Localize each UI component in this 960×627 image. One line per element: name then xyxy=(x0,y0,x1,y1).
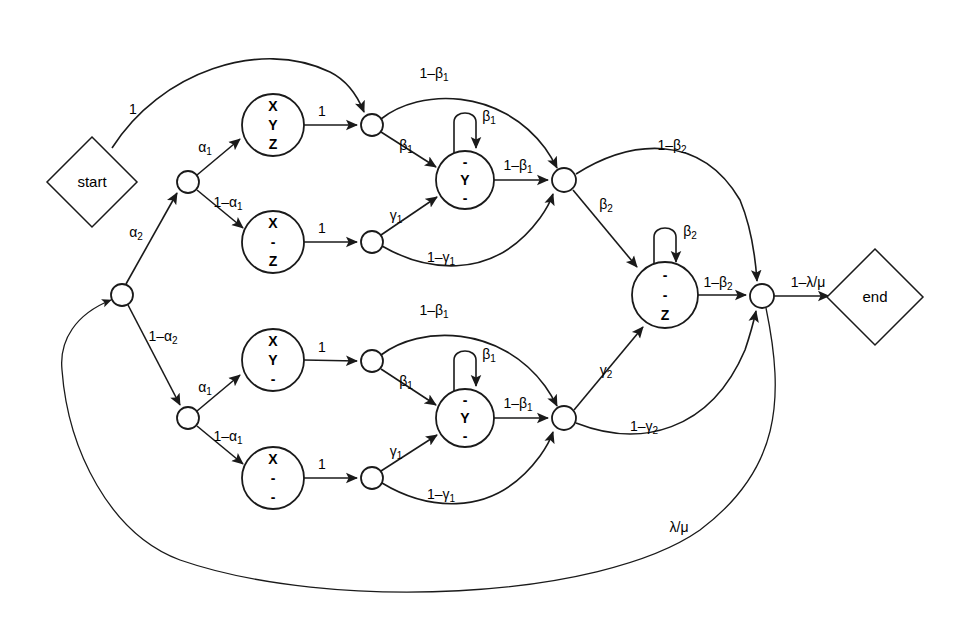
edge-label-lambda-over-mu: λ/μ xyxy=(670,519,689,535)
junction-lower-merge[interactable] xyxy=(552,406,576,430)
state-y-lower-line-3: - xyxy=(463,428,468,444)
edge-label-one-minus-alpha2: 1–α2 xyxy=(148,328,178,346)
state-xyz-line-1: X xyxy=(268,98,278,114)
edge-label-one-xdd: 1 xyxy=(318,456,326,472)
edge-label-one-minus-gamma1-upper: 1–γ1 xyxy=(427,249,456,267)
edge-label-gamma2: γ2 xyxy=(600,362,613,380)
edge-label-gamma1-lower: γ1 xyxy=(390,443,403,461)
edge-label-beta1-self-loop-upper: β1 xyxy=(482,108,496,126)
edge-label-one-minus-beta1-lower-mid: 1–β1 xyxy=(503,395,533,413)
edge-label-one-minus-beta1-upper-arc: 1–β1 xyxy=(419,65,449,83)
state-node-xyz[interactable]: X Y Z xyxy=(242,94,304,156)
junction-lower-beta[interactable] xyxy=(361,350,383,372)
edge-label-alpha2: α2 xyxy=(129,224,143,242)
state-xdd-line-2: - xyxy=(271,470,276,486)
state-y-upper-line-1: - xyxy=(463,154,468,170)
edge-start-to-upper-merge xyxy=(112,59,364,148)
state-y-upper-line-2: Y xyxy=(460,172,470,188)
state-y-lower-line-1: - xyxy=(463,392,468,408)
junction-lower-gamma[interactable] xyxy=(361,467,383,489)
edge-label-alpha1-upper: α1 xyxy=(198,139,212,157)
state-xyd-line-3: - xyxy=(271,371,276,387)
edge-label-one-minus-lambda-over-mu: 1–λ/μ xyxy=(791,274,826,290)
edge-label-one-minus-gamma1-lower: 1–γ1 xyxy=(427,486,456,504)
state-xyz-line-2: Y xyxy=(268,117,278,133)
edge-label-one-xyd: 1 xyxy=(318,339,326,355)
edge-layer xyxy=(62,59,829,592)
start-terminal[interactable]: start xyxy=(47,137,137,227)
junction-lower-branch[interactable] xyxy=(177,407,199,429)
end-terminal[interactable]: end xyxy=(827,249,923,345)
state-xdz-line-3: Z xyxy=(269,253,278,269)
edge-label-one-minus-beta1-lower-arc: 1–β1 xyxy=(419,302,449,320)
edge-upper-merge-to-final xyxy=(576,148,757,281)
junction-upper-merge[interactable] xyxy=(552,168,576,192)
state-node-ddz[interactable]: - - Z xyxy=(632,262,698,328)
edge-root-to-lower-branch xyxy=(128,305,180,405)
node-layer: start end X Y Z X - Z xyxy=(47,94,923,509)
edge-label-beta1-self-loop-lower: β1 xyxy=(482,346,496,364)
state-xdd-line-3: - xyxy=(271,489,276,505)
state-node-y-upper[interactable]: - Y - xyxy=(436,151,494,209)
junction-upper-beta[interactable] xyxy=(361,114,383,136)
edge-label-beta2: β2 xyxy=(599,196,613,214)
junction-final[interactable] xyxy=(750,284,774,308)
edge-label-alpha1-lower: α1 xyxy=(198,379,212,397)
state-ddz-line-1: - xyxy=(663,267,668,283)
state-xdz-line-2: - xyxy=(271,234,276,250)
edge-self-loop-y-upper xyxy=(454,113,476,153)
state-ddz-line-2: - xyxy=(663,287,668,303)
edge-label-one-minus-beta1-upper-mid: 1–β1 xyxy=(503,157,533,175)
state-xyd-line-1: X xyxy=(268,333,278,349)
state-xdd-line-1: X xyxy=(268,451,278,467)
state-node-xdz[interactable]: X - Z xyxy=(242,211,304,273)
edge-label-one-xdz: 1 xyxy=(318,220,326,236)
edge-label-beta1-upper: β1 xyxy=(399,137,413,155)
edge-label-one-xyz: 1 xyxy=(318,103,326,119)
start-label: start xyxy=(77,173,107,190)
state-node-xdd[interactable]: X - - xyxy=(242,447,304,509)
edge-xyd-to-beta-junction xyxy=(304,360,357,361)
edge-label-one-minus-beta2-mid: 1–β2 xyxy=(703,274,733,292)
edge-label-beta2-self-loop: β2 xyxy=(683,223,697,241)
state-node-xyd[interactable]: X Y - xyxy=(242,329,304,391)
edge-label-start-one: 1 xyxy=(129,101,137,117)
junction-upper-branch[interactable] xyxy=(177,171,199,193)
state-ddz-line-3: Z xyxy=(661,307,670,323)
state-xyz-line-3: Z xyxy=(269,136,278,152)
edge-label-one-minus-alpha1-lower: 1–α1 xyxy=(213,428,243,446)
edge-label-beta1-lower: β1 xyxy=(399,373,413,391)
junction-upper-gamma[interactable] xyxy=(361,231,383,253)
state-y-upper-line-3: - xyxy=(463,190,468,206)
edge-label-gamma1-upper: γ1 xyxy=(390,207,403,225)
state-xyd-line-2: Y xyxy=(268,352,278,368)
edge-label-one-minus-gamma2: 1–γ2 xyxy=(630,418,659,436)
state-node-y-lower[interactable]: - Y - xyxy=(436,389,494,447)
edge-label-one-minus-alpha1-upper: 1–α1 xyxy=(213,194,243,212)
edge-label-one-minus-beta2-arc: 1–β2 xyxy=(657,137,687,155)
edge-label-layer: 1 α2 α1 1–α1 1 1 1–β1 β1 β1 1–β1 γ1 1–γ1… xyxy=(129,65,825,535)
state-machine-diagram: start end X Y Z X - Z xyxy=(0,0,960,627)
end-label: end xyxy=(862,288,887,305)
edge-self-loop-z xyxy=(654,228,676,266)
edge-self-loop-y-lower xyxy=(454,351,476,391)
state-xdz-line-1: X xyxy=(268,215,278,231)
junction-root[interactable] xyxy=(111,284,133,306)
state-y-lower-line-2: Y xyxy=(460,410,470,426)
state-diagram-canvas: start end X Y Z X - Z xyxy=(0,0,960,627)
